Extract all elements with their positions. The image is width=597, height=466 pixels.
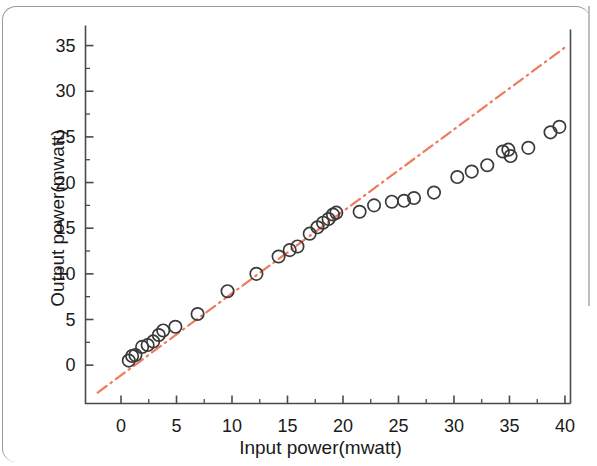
figure-container: Input power(mwatt) Output power(mwatt) 0… [0, 0, 597, 466]
data-point-markers [123, 121, 566, 367]
data-point-marker [428, 186, 440, 198]
data-point-marker [169, 321, 181, 333]
data-point-marker [250, 268, 262, 280]
y-tick-label: 5 [28, 309, 76, 330]
data-point-marker [353, 206, 365, 218]
y-tick-label: 30 [28, 81, 76, 102]
data-point-marker [368, 199, 380, 211]
x-tick-label: 20 [333, 416, 353, 437]
data-point-marker [466, 165, 478, 177]
x-axis-title: Input power(mwatt) [0, 437, 597, 459]
x-tick-label: 0 [116, 416, 126, 437]
x-tick-label: 30 [444, 416, 464, 437]
x-tick-label: 10 [222, 416, 242, 437]
data-point-marker [386, 196, 398, 208]
data-point-marker [291, 240, 303, 252]
data-point-marker [451, 171, 463, 183]
y-tick-label: 0 [28, 355, 76, 376]
x-axis-major-ticks [121, 396, 565, 404]
y-tick-label: 25 [28, 126, 76, 147]
y-tick-label: 10 [28, 263, 76, 284]
x-tick-label: 35 [499, 416, 519, 437]
scatter-plot-canvas [0, 0, 597, 466]
data-point-marker [284, 244, 296, 256]
data-point-marker [553, 121, 565, 133]
data-point-marker [303, 227, 315, 239]
y-tick-label: 20 [28, 172, 76, 193]
x-tick-label: 5 [171, 416, 181, 437]
x-tick-label: 40 [555, 416, 575, 437]
x-tick-label: 15 [277, 416, 297, 437]
data-point-marker [481, 159, 493, 171]
x-tick-label: 25 [388, 416, 408, 437]
y-tick-label: 15 [28, 218, 76, 239]
y-tick-label: 35 [28, 35, 76, 56]
data-point-marker [522, 142, 534, 154]
data-point-marker [544, 126, 556, 138]
